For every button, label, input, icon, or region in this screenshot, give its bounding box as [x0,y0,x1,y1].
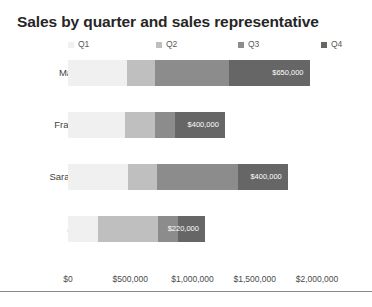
bar-segment-q2[interactable] [128,164,157,190]
legend-item-q3[interactable]: Q3 [238,38,259,51]
chart-title: Sales by quarter and sales representativ… [17,13,319,31]
bar-segment-q3[interactable] [155,60,228,86]
bar-segment-q1[interactable] [68,60,127,86]
bar-value-label: $400,000 [250,164,281,190]
bar-segment-q2[interactable] [98,216,158,242]
bar-row: Sarabeth$400,000 [0,164,372,190]
bar-row: John$220,000 [0,216,372,242]
legend-item-q2[interactable]: Q2 [156,38,177,51]
chart-legend: Q1Q2Q3Q4 [68,38,318,51]
legend-swatch-icon [68,42,74,48]
bar-segment-q1[interactable] [68,216,98,242]
stacked-bar[interactable]: $400,000 [68,112,225,138]
axis-baseline [0,291,372,292]
legend-item-label: Q3 [248,40,259,49]
bar-segment-q3[interactable] [157,164,238,190]
bar-value-label: $400,000 [188,112,219,138]
legend-swatch-icon [238,42,244,48]
bar-value-label: $220,000 [168,216,199,242]
bar-segment-q4[interactable]: $220,000 [178,216,205,242]
legend-item-q1[interactable]: Q1 [68,38,89,51]
bar-segment-q4[interactable]: $400,000 [175,112,225,138]
legend-item-label: Q2 [166,40,177,49]
legend-item-label: Q4 [331,40,342,49]
legend-swatch-icon [321,42,327,48]
x-tick-label: $1,000,000 [171,274,214,284]
bar-row: Franklin$400,000 [0,112,372,138]
bar-segment-q1[interactable] [68,164,128,190]
stacked-bar[interactable]: $220,000 [68,216,205,242]
x-tick-label: $0 [63,274,72,284]
x-tick-label: $2,000,000 [296,274,339,284]
bar-row: Marion$650,000 [0,60,372,86]
bar-segment-q4[interactable]: $650,000 [229,60,310,86]
legend-item-label: Q1 [78,40,89,49]
bar-value-label: $650,000 [272,60,303,86]
x-tick-label: $500,000 [113,274,148,284]
stacked-bar[interactable]: $650,000 [68,60,310,86]
x-axis-tick-labels: $0$500,000$1,000,000$1,500,000$2,000,000 [0,274,372,290]
bar-segment-q1[interactable] [68,112,125,138]
plot-area: Marion$650,000Franklin$400,000Sarabeth$4… [0,56,372,274]
bar-segment-q2[interactable] [125,112,155,138]
legend-swatch-icon [156,42,162,48]
sales-bar-chart: Sales by quarter and sales representativ… [0,0,372,307]
bar-segment-q2[interactable] [127,60,156,86]
stacked-bar[interactable]: $400,000 [68,164,288,190]
x-tick-label: $1,500,000 [233,274,276,284]
bar-segment-q4[interactable]: $400,000 [238,164,288,190]
legend-item-q4[interactable]: Q4 [321,38,342,51]
bar-segment-q3[interactable] [155,112,175,138]
